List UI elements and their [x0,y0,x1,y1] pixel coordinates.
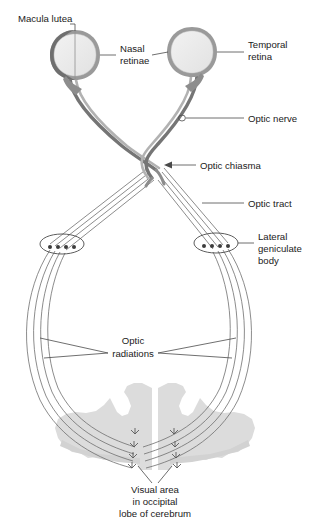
right-tract-fiber-3 [160,176,218,247]
label-temporal-retina-line2: retina [248,51,273,62]
optic-nerves-and-chiasma [70,76,197,186]
label-optic-nerve: Optic nerve [248,113,297,124]
label-visual-area-line1: Visual area [131,484,179,495]
left-tract-fiber-4 [66,180,154,250]
left-optic-nerve-light-band [76,80,159,168]
label-optic-chiasma: Optic chiasma [200,160,261,171]
visual-pathway-figure: Macula lutea Nasal retinae Temporal reti… [0,0,322,525]
optic-radiations-leader-left-b [44,353,108,358]
nasal-retinae-leader-right [152,52,168,55]
occipital-lobe-brain [55,383,255,472]
right-tract-fiber-4 [158,180,213,249]
optic-radiations-leader-right-a [158,338,236,353]
label-lateral-geniculate-body-line3: body [258,255,279,266]
label-optic-radiations-line1: Optic [122,335,145,346]
optic-tracts [50,168,228,250]
left-tract-fiber-3 [60,176,152,248]
label-visual-area-line2: in occipital [133,496,178,507]
optic-radiations-leader-left-a [40,338,108,353]
left-tract-fiber-1 [50,168,148,244]
optic-radiations-leader-right-b [158,353,232,358]
interhemispheric-fissure [153,385,157,472]
label-nasal-retinae-line2: retinae [120,55,149,66]
right-eyeball [167,27,217,92]
label-nasal-retinae-line1: Nasal [120,43,145,54]
right-tract-fiber-1 [164,168,228,243]
label-optic-tract: Optic tract [248,198,292,209]
optic-chiasma-arrowhead [164,162,172,169]
label-optic-radiations-line2: radiations [112,348,154,359]
label-lateral-geniculate-body-line2: geniculate [258,243,302,254]
left-lateral-geniculate-body [40,234,84,254]
right-eye-interior [171,31,213,73]
label-macula-lutea: Macula lutea [18,13,73,24]
left-eyeball [50,30,100,95]
visual-pathway-illustration: Macula lutea Nasal retinae Temporal reti… [0,0,322,525]
label-lateral-geniculate-body-line1: Lateral [258,231,287,242]
label-temporal-retina-line1: Temporal [248,39,287,50]
label-visual-area-line3: lobe of cerebrum [119,508,191,519]
right-tract-fiber-2 [162,172,223,245]
